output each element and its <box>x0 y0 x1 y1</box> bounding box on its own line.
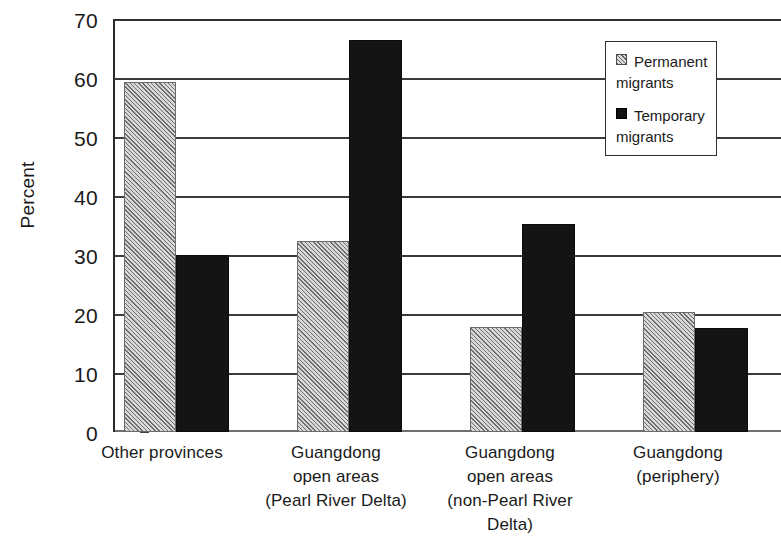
solid-black-swatch-icon <box>616 108 627 119</box>
y-tick-mark-0 <box>140 432 149 433</box>
y-tick-label-70: 70 <box>36 10 98 31</box>
bar-permanent-guangdong-periphery <box>643 312 695 432</box>
bar-permanent-guangdong-prd <box>297 241 349 432</box>
y-tick-label-20: 20 <box>36 305 98 326</box>
legend-label-permanent: Permanent migrants <box>616 53 707 91</box>
legend-entry-permanent: Permanent migrants <box>616 51 716 93</box>
hatched-swatch-icon <box>616 54 627 65</box>
y-tick-label-30: 30 <box>36 246 98 267</box>
plot-area: Permanent migrants Temporary migrants <box>113 19 781 432</box>
gridline-40 <box>115 196 781 198</box>
legend-label-temporary: Temporary migrants <box>616 107 705 145</box>
x-category-label-guangdong-periphery: Guangdong (periphery) <box>590 441 766 489</box>
y-tick-label-40: 40 <box>36 187 98 208</box>
bar-temporary-other-provinces <box>176 255 229 432</box>
y-tick-label-10: 10 <box>36 364 98 385</box>
bar-temporary-guangdong-prd <box>349 40 402 432</box>
bar-permanent-guangdong-non-prd <box>470 327 522 432</box>
y-tick-label-60: 60 <box>36 69 98 90</box>
x-category-label-guangdong-non-prd: Guangdong open areas (non-Pearl River De… <box>406 441 614 537</box>
y-tick-label-50: 50 <box>36 128 98 149</box>
bar-temporary-guangdong-periphery <box>695 328 748 432</box>
bar-permanent-other-provinces <box>124 82 176 432</box>
legend-entry-temporary: Temporary migrants <box>616 105 716 147</box>
chart-legend: Permanent migrants Temporary migrants <box>605 41 717 156</box>
gridline-70 <box>115 19 781 21</box>
bar-temporary-guangdong-non-prd <box>522 224 575 432</box>
